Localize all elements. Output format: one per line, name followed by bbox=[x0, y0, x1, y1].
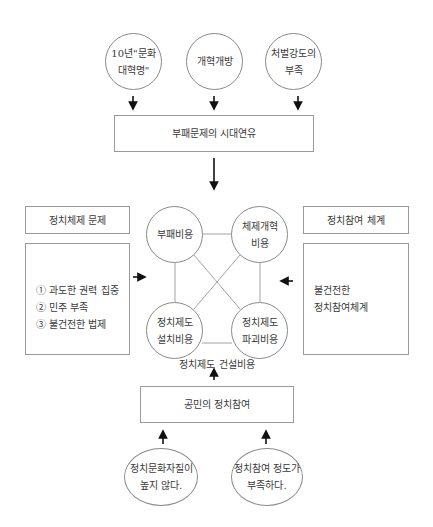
node-line: 처벌강도의 bbox=[271, 45, 316, 62]
node-line: 파괴비용 bbox=[242, 331, 278, 348]
left-panel-content-box: ① 과도한 권력 집중 ② 민주 부족 ③ 불건전한 법제 bbox=[25, 243, 130, 355]
left-panel-title: 정치체제 문제 bbox=[49, 212, 106, 229]
node-reform-cost: 체제개혁 비용 bbox=[231, 206, 288, 263]
cause-insufficient-participation: 정치참여 정도가 부족하다. bbox=[231, 448, 303, 506]
node-line: 정치참여 정도가 bbox=[234, 460, 300, 477]
node-line: 높지 않다. bbox=[140, 477, 182, 494]
node-line: 정치문화자질이 bbox=[130, 460, 193, 477]
cause-low-political-culture: 정치문화자질이 높지 않다. bbox=[124, 448, 198, 506]
panel-line: 정치참여체계 bbox=[314, 299, 408, 316]
node-corruption-cost: 부패비용 bbox=[146, 206, 203, 263]
node-line: 대혁명" bbox=[118, 62, 150, 79]
node-line: 비용 bbox=[251, 235, 269, 252]
node-line: 10년"문화 bbox=[111, 45, 155, 62]
list-item: ② 민주 부족 bbox=[36, 299, 129, 316]
node-line: 개혁개방 bbox=[197, 53, 233, 70]
node-line: 부족 bbox=[285, 62, 303, 79]
participation-box: 공민의 정치참여 bbox=[140, 386, 294, 423]
right-panel-content-box: 불건전한 정치참여체계 bbox=[303, 243, 409, 355]
cause-weak-punishment: 처벌강도의 부족 bbox=[265, 33, 322, 90]
cost-group-label: 정치제도 건설비용 bbox=[164, 356, 270, 373]
panel-line: 불건전한 bbox=[314, 282, 408, 299]
node-line: 체제개혁 bbox=[242, 218, 278, 235]
node-destruction-cost: 정치제도 파괴비용 bbox=[231, 302, 288, 359]
cause-cultural-revolution: 10년"문화 대혁명" bbox=[105, 33, 162, 90]
node-line: 정치제도 bbox=[157, 314, 193, 331]
participation-label: 공민의 정치참여 bbox=[184, 396, 250, 413]
left-panel-title-box: 정치체제 문제 bbox=[25, 206, 130, 234]
node-line: 부패비용 bbox=[157, 226, 193, 243]
list-item: ① 과도한 권력 집중 bbox=[36, 282, 129, 299]
era-origin-box: 부패문제의 시대연유 bbox=[114, 115, 314, 152]
cause-reform-opening: 개혁개방 bbox=[186, 33, 243, 90]
node-installation-cost: 정치제도 설치비용 bbox=[146, 302, 203, 359]
node-line: 설치비용 bbox=[157, 331, 193, 348]
era-origin-label: 부패문제의 시대연유 bbox=[172, 125, 256, 142]
node-line: 정치제도 bbox=[242, 314, 278, 331]
list-item: ③ 불건전한 법제 bbox=[36, 316, 129, 333]
right-panel-title: 정치참여 체계 bbox=[327, 212, 384, 229]
right-panel-title-box: 정치참여 체계 bbox=[303, 206, 409, 234]
node-line: 부족하다. bbox=[247, 477, 286, 494]
